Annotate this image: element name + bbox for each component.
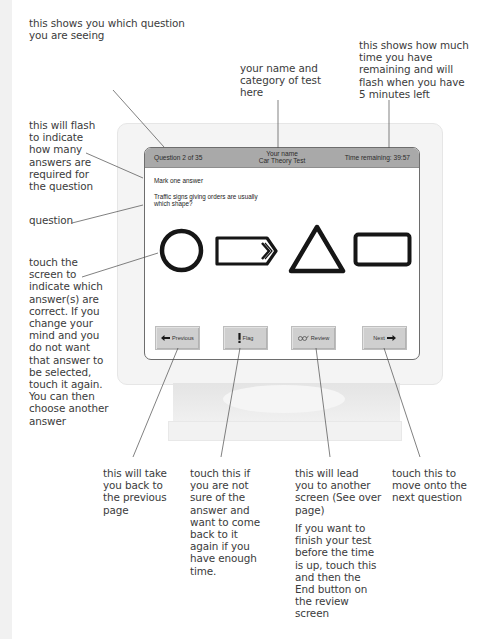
review-label: Review xyxy=(311,335,329,341)
circle-shape-icon xyxy=(159,228,204,273)
review-button[interactable]: Review xyxy=(291,326,336,350)
annotation-next: touch this to move onto the next questio… xyxy=(392,467,467,504)
glasses-icon xyxy=(298,335,309,341)
monitor-stand-base xyxy=(168,421,402,441)
previous-button[interactable]: Previous xyxy=(155,326,200,350)
rectangle-shape-icon xyxy=(353,232,412,267)
next-label: Next xyxy=(373,335,385,341)
question-text: Traffic signs giving orders are usually … xyxy=(154,194,264,208)
flag-button[interactable]: Flag xyxy=(223,326,268,350)
arrow-rectangle-shape-icon xyxy=(215,235,279,267)
screen-header-bar: Question 2 of 35 Your name Car Theory Te… xyxy=(145,148,419,168)
answer-arrow-rectangle[interactable] xyxy=(215,235,279,267)
arrow-left-icon xyxy=(161,335,170,341)
annotation-flag: touch this if you are not sure of the an… xyxy=(190,467,260,577)
annotation-mark-count: this will flash to indicate how many ans… xyxy=(29,119,95,192)
annotation-question-number: this shows you which question you are se… xyxy=(29,17,185,41)
flag-label: Flag xyxy=(243,335,254,341)
annotation-question: question xyxy=(29,214,73,226)
annotation-time-remaining: this shows how much time you have remain… xyxy=(359,39,469,100)
test-screen: Question 2 of 35 Your name Car Theory Te… xyxy=(144,147,420,360)
page-margin-band xyxy=(0,0,12,639)
annotation-candidate-info: your name and category of test here xyxy=(240,62,321,99)
annotation-touch-answer: touch the screen to indicate which answe… xyxy=(29,256,108,427)
time-remaining: Time remaining: 39:57 xyxy=(345,154,410,161)
exclamation-icon xyxy=(238,333,241,343)
answer-triangle[interactable] xyxy=(288,223,346,275)
monitor-stand-swivel xyxy=(223,385,345,413)
annotation-review-end: If you want to finish your test before t… xyxy=(295,522,376,620)
arrow-right-icon xyxy=(387,335,396,341)
next-button[interactable]: Next xyxy=(362,326,407,350)
answer-circle[interactable] xyxy=(159,228,204,273)
previous-label: Previous xyxy=(172,335,194,341)
mark-instruction: Mark one answer xyxy=(154,177,203,184)
annotation-previous: this will take you back to the previous … xyxy=(103,467,167,516)
annotation-review: this will lead you to another screen (Se… xyxy=(295,467,381,516)
answer-rectangle[interactable] xyxy=(353,232,412,267)
triangle-shape-icon xyxy=(288,223,346,275)
